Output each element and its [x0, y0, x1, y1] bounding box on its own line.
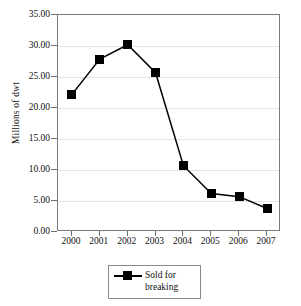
- chart-legend: Sold for breaking: [108, 265, 201, 299]
- plot-area: [57, 14, 280, 231]
- y-axis-tick-label: 10.00: [4, 164, 50, 174]
- series-line: [72, 45, 267, 209]
- data-point-marker: [235, 192, 244, 201]
- legend-marker-icon: [114, 270, 142, 282]
- series-sold-for-breaking: [58, 15, 279, 230]
- data-point-marker: [263, 204, 272, 213]
- chart-figure: Millions of dwt 0.005.0010.0015.0020.002…: [0, 0, 301, 306]
- y-axis-tick-label: 0.00: [4, 226, 50, 236]
- legend-entry: Sold for breaking: [114, 269, 178, 293]
- data-point-marker: [179, 161, 188, 170]
- data-point-marker: [95, 55, 104, 64]
- y-axis-tick-label: 5.00: [4, 195, 50, 205]
- y-axis-tick-label: 20.00: [4, 102, 50, 112]
- legend-label: Sold for breaking: [145, 269, 178, 293]
- x-axis-tick-label: 2007: [246, 236, 286, 247]
- y-axis-tick-label: 30.00: [4, 40, 50, 50]
- data-point-marker: [151, 68, 160, 77]
- y-axis-tick-mark: [51, 231, 57, 232]
- data-point-marker: [67, 90, 76, 99]
- y-axis-tick-label: 35.00: [4, 9, 50, 19]
- y-axis-tick-label: 25.00: [4, 71, 50, 81]
- data-point-marker: [123, 40, 132, 49]
- data-point-marker: [207, 189, 216, 198]
- y-axis-tick-label: 15.00: [4, 133, 50, 143]
- series-line-path: [58, 15, 281, 232]
